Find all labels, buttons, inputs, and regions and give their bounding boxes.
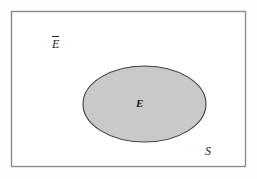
event-ellipse [83, 66, 206, 142]
venn-diagram-canvas [0, 0, 257, 179]
venn-diagram-figure: E E S [0, 0, 257, 179]
